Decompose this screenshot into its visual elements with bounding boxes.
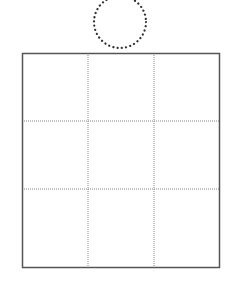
grid — [22, 53, 220, 268]
diagram-canvas — [0, 0, 231, 283]
grid-border — [23, 54, 220, 268]
dotted-circle — [94, 0, 146, 48]
